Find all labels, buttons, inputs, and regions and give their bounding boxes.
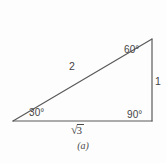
- angle-label-60: 60°: [124, 45, 139, 55]
- side-label-horizontal-leg: √3: [71, 124, 84, 136]
- radical-expression: √3: [71, 124, 84, 136]
- figure-caption: (a): [0, 140, 166, 151]
- angle-label-30: 30°: [29, 108, 44, 118]
- figure-container: 60° 30° 90° 2 1 √3 (a): [0, 0, 166, 163]
- radicand-value: 3: [77, 124, 85, 136]
- angle-label-90: 90°: [127, 110, 142, 120]
- side-label-vertical-leg: 1: [155, 76, 161, 87]
- side-label-hypotenuse: 2: [69, 61, 75, 72]
- triangle-diagram: [0, 0, 166, 163]
